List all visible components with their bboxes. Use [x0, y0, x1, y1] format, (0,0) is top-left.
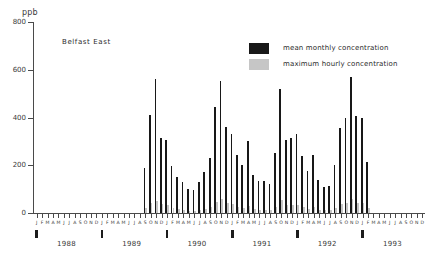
bar-max-hourly — [323, 187, 325, 213]
month-ticks — [34, 214, 425, 219]
y-axis-tick-label: 600 — [0, 66, 26, 74]
bar-mean-monthly — [308, 209, 310, 213]
month-tick — [292, 214, 293, 218]
bar-max-hourly — [149, 115, 151, 213]
month-tick — [48, 214, 49, 218]
bar-max-hourly — [307, 171, 309, 213]
year-separator — [231, 230, 234, 238]
month-tick — [151, 214, 152, 218]
bar-mean-monthly — [178, 209, 180, 213]
month-tick — [411, 214, 412, 218]
bar-mean-monthly — [189, 211, 191, 213]
y-axis-tick-label: 200 — [0, 161, 26, 169]
bar-mean-monthly — [243, 208, 245, 213]
bar-max-hourly — [312, 155, 314, 213]
bar-mean-monthly — [254, 209, 256, 213]
bar-max-hourly — [182, 182, 184, 213]
month-tick — [330, 214, 331, 218]
bar-mean-monthly — [303, 207, 305, 213]
bar-mean-monthly — [319, 210, 321, 213]
bar-max-hourly — [361, 118, 363, 214]
bar-mean-monthly — [232, 204, 234, 213]
bar-max-hourly — [193, 190, 195, 213]
chart-container: ppb Belfast East 0200400600800 JFMAMJJAS… — [0, 0, 429, 260]
bar-mean-monthly — [276, 207, 278, 213]
y-axis-tick-label: 400 — [0, 114, 26, 122]
month-tick — [200, 214, 201, 218]
bar-mean-monthly — [151, 203, 153, 213]
month-tick — [96, 214, 97, 218]
bar-max-hourly — [187, 189, 189, 213]
month-tick — [134, 214, 135, 218]
bar-max-hourly — [247, 141, 249, 213]
month-tick — [58, 214, 59, 218]
bar-mean-monthly — [162, 204, 164, 213]
bar-max-hourly — [269, 184, 271, 213]
month-tick — [113, 214, 114, 218]
bar-max-hourly — [258, 181, 260, 213]
bar-mean-monthly — [216, 202, 218, 213]
bar-mean-monthly — [292, 205, 294, 213]
year-separator — [296, 230, 299, 238]
month-tick — [210, 214, 211, 218]
bar-mean-monthly — [281, 200, 283, 213]
year-separator — [361, 230, 364, 238]
bar-max-hourly — [345, 118, 347, 214]
bar-max-hourly — [203, 172, 205, 213]
month-tick — [145, 214, 146, 218]
month-tick — [172, 214, 173, 218]
year-separator — [35, 230, 38, 238]
bar-max-hourly — [301, 156, 303, 213]
bar-mean-monthly — [156, 201, 158, 213]
legend-swatch-light-icon — [249, 59, 269, 70]
bar-mean-monthly — [346, 203, 348, 213]
bar-mean-monthly — [363, 203, 365, 213]
month-tick — [118, 214, 119, 218]
month-tick — [91, 214, 92, 218]
month-tick — [341, 214, 342, 218]
bar-mean-monthly — [259, 210, 261, 213]
month-tick — [352, 214, 353, 218]
month-tick — [221, 214, 222, 218]
year-separator — [166, 230, 169, 238]
bar-mean-monthly — [167, 205, 169, 213]
bar-max-hourly — [225, 127, 227, 213]
month-tick — [53, 214, 54, 218]
month-tick — [124, 214, 125, 218]
bar-max-hourly — [155, 79, 157, 213]
bar-max-hourly — [220, 81, 222, 214]
bar-mean-monthly — [270, 210, 272, 213]
bar-mean-monthly — [297, 205, 299, 213]
month-tick — [194, 214, 195, 218]
month-tick — [178, 214, 179, 218]
month-tick — [357, 214, 358, 218]
legend-swatch-dark-icon — [249, 43, 269, 54]
bar-max-hourly — [209, 158, 211, 213]
bar-max-hourly — [285, 140, 287, 213]
month-tick — [390, 214, 391, 218]
month-tick — [254, 214, 255, 218]
month-tick — [373, 214, 374, 218]
bar-max-hourly — [252, 175, 254, 213]
month-tick — [363, 214, 364, 218]
bar-max-hourly — [144, 168, 146, 213]
legend-label-mean: mean monthly concentration — [283, 44, 389, 52]
bar-max-hourly — [274, 153, 276, 213]
bar-max-hourly — [198, 182, 200, 213]
bar-max-hourly — [334, 165, 336, 213]
bar-max-hourly — [236, 155, 238, 213]
month-tick — [167, 214, 168, 218]
bar-mean-monthly — [330, 210, 332, 213]
month-tick — [42, 214, 43, 218]
bar-mean-monthly — [200, 210, 202, 213]
bar-mean-monthly — [211, 207, 213, 213]
month-tick — [417, 214, 418, 218]
month-tick — [86, 214, 87, 218]
bar-max-hourly — [350, 77, 352, 213]
month-tick — [422, 214, 423, 218]
month-tick — [325, 214, 326, 218]
month-tick — [379, 214, 380, 218]
bar-mean-monthly — [249, 206, 251, 213]
bar-max-hourly — [328, 186, 330, 213]
bar-mean-monthly — [205, 209, 207, 213]
